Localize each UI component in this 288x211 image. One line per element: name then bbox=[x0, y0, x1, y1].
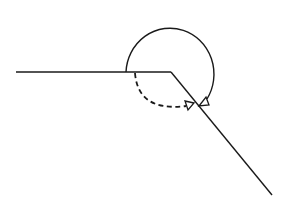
diagonal-ray bbox=[171, 72, 272, 195]
interior-angle-arc bbox=[135, 73, 186, 107]
reflex-angle-arc bbox=[126, 28, 214, 99]
angle-diagram bbox=[0, 0, 288, 211]
interior-arc-arrowhead-icon bbox=[185, 101, 194, 110]
